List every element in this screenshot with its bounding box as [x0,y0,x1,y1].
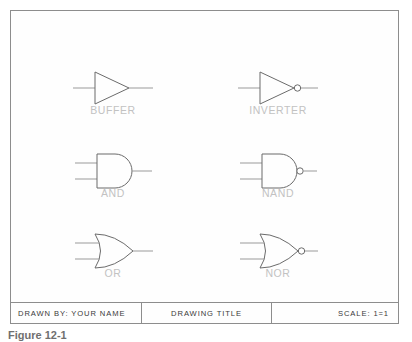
gate-label-nand: NAND [218,187,338,199]
gate-label-buffer: BUFFER [53,104,173,116]
figure-caption: Figure 12-1 [8,329,67,341]
gate-label-and: AND [53,187,173,199]
title-block-drawing-title[interactable]: DRAWING TITLE [142,303,272,323]
logic-gate-symbol-grid: BUFFER INVERTER AND [11,11,398,295]
gate-and: AND [53,149,173,211]
gate-label-inverter: INVERTER [218,104,338,116]
title-block-scale[interactable]: SCALE: 1=1 [272,303,398,323]
gate-nor: NOR [218,229,338,291]
gate-label-nor: NOR [218,267,338,279]
gate-or: OR [53,229,173,291]
gate-buffer: BUFFER [53,66,173,128]
gate-nand: NAND [218,149,338,211]
drawing-sheet: BUFFER INVERTER AND [10,10,399,324]
title-block-drawn-by[interactable]: DRAWN BY: YOUR NAME [11,303,142,323]
gate-inverter: INVERTER [218,66,338,128]
gate-label-or: OR [53,267,173,279]
title-block: DRAWN BY: YOUR NAME DRAWING TITLE SCALE:… [11,302,398,323]
